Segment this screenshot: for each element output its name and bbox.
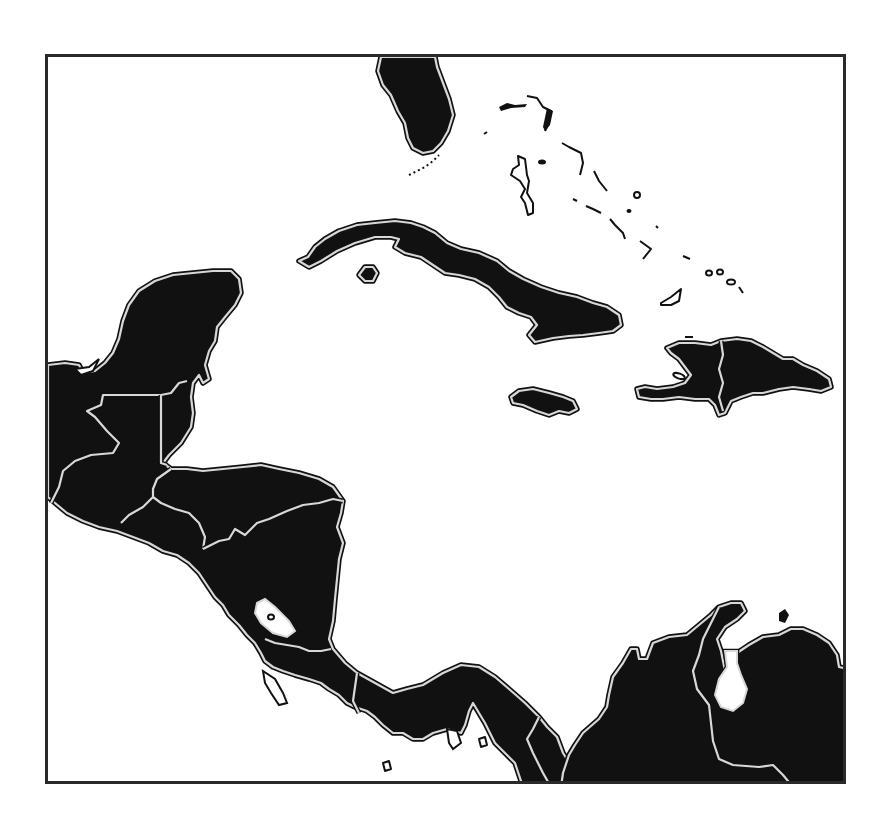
cuba (299, 221, 621, 342)
caribbean-map (48, 57, 846, 784)
south-america (561, 603, 846, 784)
hispaniola (637, 337, 831, 415)
florida (378, 57, 453, 175)
map-frame (45, 54, 846, 784)
pacific-islets (383, 737, 487, 771)
isla-juventud (359, 267, 377, 281)
jamaica (511, 389, 577, 415)
central-america-mainland (48, 271, 583, 784)
bahamas (484, 96, 743, 305)
